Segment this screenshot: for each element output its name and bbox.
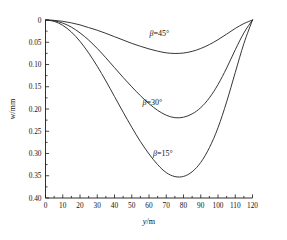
y-axis-ticks bbox=[46, 20, 50, 198]
x-tick-label: 80 bbox=[180, 201, 188, 210]
x-tick-label: 60 bbox=[145, 201, 153, 210]
x-tick-label: 20 bbox=[76, 201, 84, 210]
y-tick-label: 0 bbox=[38, 16, 42, 25]
x-tick-label: 10 bbox=[59, 201, 67, 210]
x-tick-label: 100 bbox=[213, 201, 224, 210]
y-tick-label: 0.30 bbox=[29, 149, 42, 158]
chart-canvas: 0102030405060708090100110120 00.050.100.… bbox=[0, 0, 287, 240]
x-tick-label: 30 bbox=[94, 201, 102, 210]
axes-group bbox=[46, 20, 253, 198]
y-tick-label: 0.40 bbox=[29, 194, 42, 203]
x-tick-label: 90 bbox=[197, 201, 205, 210]
y-tick-label: 0.05 bbox=[29, 38, 42, 47]
y-tick-label: 0.35 bbox=[29, 171, 42, 180]
x-axis-title: y/m bbox=[142, 217, 156, 226]
x-axis-tick-labels: 0102030405060708090100110120 bbox=[44, 201, 259, 210]
series-label-text: =45° bbox=[153, 29, 169, 38]
y-tick-label: 0.15 bbox=[29, 82, 42, 91]
x-title-unit: /m bbox=[146, 217, 155, 226]
x-tick-label: 110 bbox=[230, 201, 241, 210]
x-tick-label: 120 bbox=[247, 201, 258, 210]
y-axis-tick-labels: 00.050.100.150.200.250.300.350.40 bbox=[29, 16, 42, 203]
x-tick-label: 40 bbox=[111, 201, 119, 210]
y-axis-title: w/mm bbox=[8, 98, 17, 119]
x-tick-label: 70 bbox=[163, 201, 171, 210]
x-tick-label: 50 bbox=[128, 201, 136, 210]
deflection-chart-figure: 0102030405060708090100110120 00.050.100.… bbox=[0, 0, 287, 240]
y-tick-label: 0.10 bbox=[29, 60, 42, 69]
series-label-beta-15: β=15° bbox=[152, 149, 173, 158]
series-label-beta-30: β=30° bbox=[142, 98, 163, 107]
x-axis-ticks bbox=[46, 194, 253, 198]
series-label-text: =15° bbox=[157, 149, 173, 158]
x-tick-label: 0 bbox=[44, 201, 48, 210]
y-tick-label: 0.20 bbox=[29, 105, 42, 114]
y-title-unit: /mm bbox=[8, 98, 17, 114]
series-label-text: =30° bbox=[147, 98, 163, 107]
y-tick-label: 0.25 bbox=[29, 127, 42, 136]
series-label-beta-45: β=45° bbox=[148, 29, 169, 38]
